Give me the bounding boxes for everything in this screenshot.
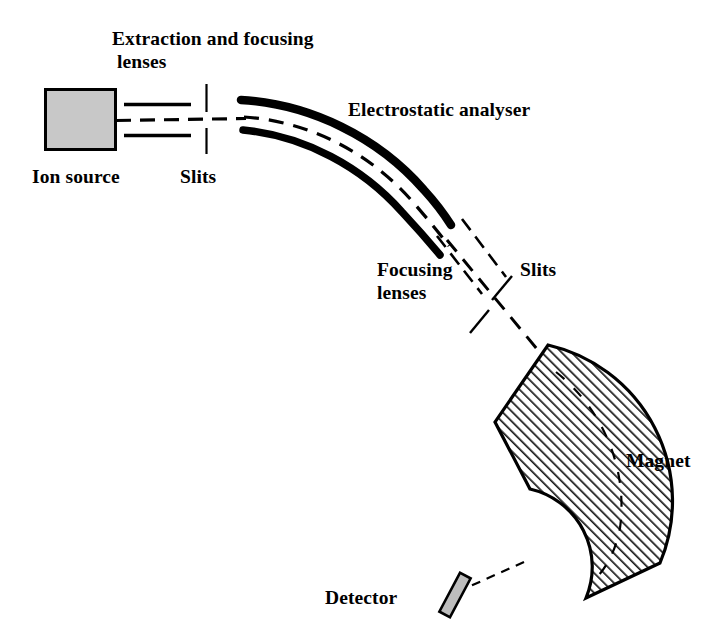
beam-path-to-detector bbox=[466, 562, 524, 588]
label-extraction-and-focusing-lenses: Extraction and focusing lenses bbox=[112, 28, 362, 73]
electrostatic-analyser-inner-plate bbox=[243, 130, 440, 255]
ion-source-box bbox=[46, 90, 116, 150]
label-slits-first: Slits bbox=[180, 166, 216, 189]
diagram-canvas bbox=[0, 0, 724, 637]
detector-plate bbox=[439, 573, 470, 617]
label-magnet: Magnet bbox=[626, 450, 691, 473]
slit-mark-lower-2-icon bbox=[470, 310, 489, 333]
label-slits-second: Slits bbox=[520, 259, 556, 282]
label-electrostatic-analyser: Electrostatic analyser bbox=[348, 99, 530, 122]
label-focusing-lenses: Focusing lenses bbox=[377, 259, 497, 304]
mass-spectrometer-diagram: Extraction and focusing lenses Ion sourc… bbox=[0, 0, 724, 637]
beam-path-source-to-analyser bbox=[116, 119, 246, 121]
label-ion-source: Ion source bbox=[32, 166, 120, 189]
label-detector: Detector bbox=[325, 587, 397, 610]
